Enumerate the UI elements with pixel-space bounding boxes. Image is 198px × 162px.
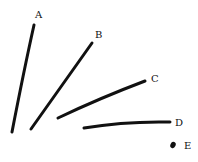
label-d: D <box>175 117 183 128</box>
line-c <box>58 81 145 118</box>
label-c: C <box>151 73 159 84</box>
label-b: B <box>95 29 102 40</box>
radiating-lines-diagram: A B C D E <box>0 0 198 162</box>
line-a <box>12 25 34 132</box>
label-e: E <box>184 140 191 151</box>
point-e-dot <box>169 141 176 149</box>
label-a: A <box>34 9 43 20</box>
line-d <box>84 122 170 128</box>
